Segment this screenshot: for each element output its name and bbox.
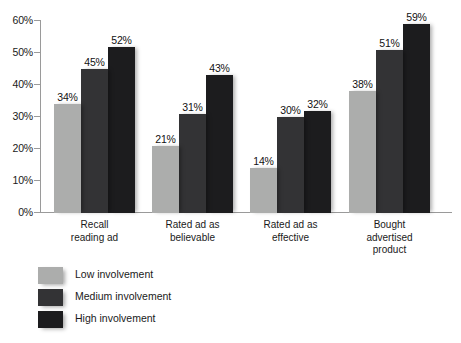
y-tick-mark	[34, 148, 40, 149]
legend-label: Medium involvement	[75, 290, 171, 302]
y-tick-mark	[34, 84, 40, 85]
legend-swatch	[38, 311, 63, 328]
category-label: Boughtadvertisedproduct	[330, 219, 450, 257]
bar-group: 38%51%59%	[349, 20, 430, 213]
legend-swatch	[38, 289, 63, 306]
y-tick-mark	[34, 212, 40, 213]
bar	[108, 47, 135, 213]
bar	[206, 75, 233, 213]
y-tick-mark	[34, 20, 40, 21]
y-axis-label: 20%	[0, 142, 33, 154]
bar-value-label: 38%	[343, 78, 383, 90]
y-tick-mark	[34, 116, 40, 117]
category-label-line: Bought	[330, 219, 450, 232]
bar-value-label: 59%	[397, 11, 437, 23]
legend-label: Low involvement	[75, 268, 153, 280]
bar-value-label: 34%	[48, 91, 88, 103]
bar-value-label: 45%	[75, 56, 115, 68]
y-axis-label: 50%	[0, 46, 33, 58]
y-axis-label: 40%	[0, 78, 33, 90]
y-axis-line	[40, 20, 41, 213]
bar-chart: 60%50%40%30%20%10%0% 34%45%52%21%31%43%1…	[0, 0, 461, 343]
bar	[54, 104, 81, 213]
y-tick-mark	[34, 52, 40, 53]
bar-value-label: 31%	[173, 101, 213, 113]
bar-value-label: 51%	[370, 37, 410, 49]
legend-swatch	[38, 267, 63, 284]
bar	[403, 24, 430, 213]
y-axis-label: 30%	[0, 110, 33, 122]
bar-group: 21%31%43%	[152, 20, 233, 213]
plot-area: 60%50%40%30%20%10%0% 34%45%52%21%31%43%1…	[0, 0, 461, 230]
bar-value-label: 43%	[200, 62, 240, 74]
bar	[152, 146, 179, 213]
bar-value-label: 52%	[102, 34, 142, 46]
y-tick-mark	[34, 180, 40, 181]
category-label-line: product	[330, 244, 450, 257]
y-axis-label: 60%	[0, 14, 33, 26]
y-axis-label: 10%	[0, 174, 33, 186]
bar-group: 14%30%32%	[250, 20, 331, 213]
category-label-line: advertised	[330, 232, 450, 245]
bar	[250, 168, 277, 213]
y-axis-label: 0%	[0, 206, 33, 218]
bar-value-label: 32%	[298, 98, 338, 110]
legend-label: High involvement	[75, 312, 156, 324]
bar-value-label: 21%	[146, 133, 186, 145]
bar	[304, 111, 331, 213]
bar	[179, 114, 206, 213]
bar-group: 34%45%52%	[54, 20, 135, 213]
bar-value-label: 14%	[244, 155, 284, 167]
bar	[376, 50, 403, 213]
bar	[349, 91, 376, 213]
